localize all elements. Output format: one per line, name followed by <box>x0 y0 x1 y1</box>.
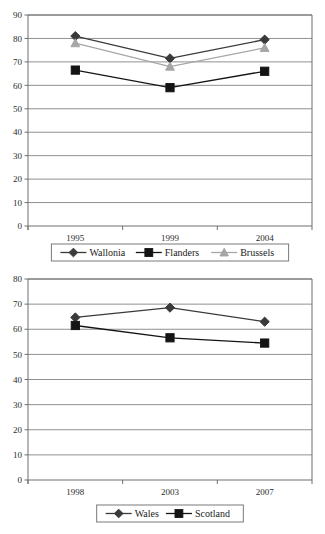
marker-diamond <box>260 317 269 326</box>
series-scotland <box>71 321 269 347</box>
legend-label: Brussels <box>240 247 274 258</box>
marker-diamond <box>71 313 80 322</box>
y-tick-label: 40 <box>13 127 23 137</box>
y-tick-label: 10 <box>13 450 23 460</box>
x-tick-label: 1999 <box>161 233 180 243</box>
y-tick-label: 60 <box>13 324 23 334</box>
legend-item-flanders[interactable]: Flanders <box>136 247 200 258</box>
legend-label: Scotland <box>195 508 230 519</box>
page-root: 0102030405060708090199519992004WalloniaF… <box>0 0 325 534</box>
y-tick-label: 50 <box>13 350 23 360</box>
marker-square <box>166 334 174 342</box>
marker-square <box>71 66 79 74</box>
y-tick-label: 70 <box>13 299 23 309</box>
legend-label: Flanders <box>165 247 200 258</box>
series-wallonia <box>71 32 270 63</box>
marker-square <box>71 321 79 329</box>
legend-item-scotland[interactable]: Scotland <box>166 508 230 519</box>
y-tick-label: 80 <box>13 34 23 44</box>
legend-label: Wallonia <box>89 247 125 258</box>
y-tick-label: 30 <box>13 151 23 161</box>
legend-label: Wales <box>135 508 159 519</box>
y-tick-label: 70 <box>13 57 23 67</box>
marker-triangle <box>260 43 269 51</box>
marker-square <box>261 67 269 75</box>
marker-square <box>175 510 183 518</box>
y-tick-label: 30 <box>13 400 23 410</box>
chart-uk-svg: 01020304050607080199820032007WalesScotla… <box>0 268 325 534</box>
x-tick-label: 2004 <box>256 233 275 243</box>
marker-triangle <box>71 39 80 47</box>
y-tick-label: 0 <box>18 475 23 485</box>
marker-square <box>261 339 269 347</box>
legend: WalloniaFlandersBrussels <box>51 244 288 261</box>
y-tick-label: 20 <box>13 425 23 435</box>
y-axis: 01020304050607080 <box>13 274 28 485</box>
plot-area <box>28 15 312 203</box>
marker-square <box>166 84 174 92</box>
chart-belgium-svg: 0102030405060708090199519992004WalloniaF… <box>0 0 325 268</box>
marker-square <box>145 249 153 257</box>
chart-uk-block: 01020304050607080199820032007WalesScotla… <box>0 268 325 534</box>
x-tick-label: 2003 <box>161 487 180 497</box>
chart-belgium-block: 0102030405060708090199519992004WalloniaF… <box>0 0 325 268</box>
x-axis: 199820032007 <box>28 480 312 497</box>
y-axis: 0102030405060708090 <box>13 10 28 231</box>
plot-frame <box>28 15 312 230</box>
series-wales <box>71 303 270 326</box>
y-tick-label: 50 <box>13 104 23 114</box>
x-axis: 199519992004 <box>28 226 312 243</box>
legend: WalesScotland <box>97 505 244 522</box>
y-tick-label: 60 <box>13 81 23 91</box>
y-tick-label: 90 <box>13 10 23 20</box>
x-tick-label: 2007 <box>256 487 275 497</box>
y-tick-label: 10 <box>13 198 23 208</box>
y-tick-label: 0 <box>18 221 23 231</box>
x-tick-label: 1995 <box>66 233 85 243</box>
y-tick-label: 80 <box>13 274 23 284</box>
y-tick-label: 40 <box>13 375 23 385</box>
y-tick-label: 20 <box>13 174 23 184</box>
x-tick-label: 1998 <box>66 487 85 497</box>
